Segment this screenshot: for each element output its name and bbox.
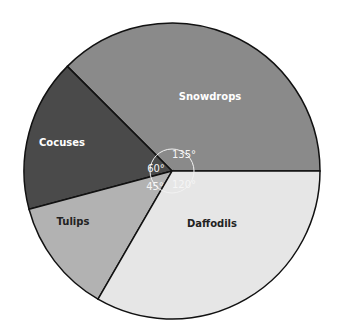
slice-label-cocuses: Cocuses — [39, 137, 85, 148]
slice-label-tulips: Tulips — [57, 216, 90, 227]
slice-label-snowdrops: Snowdrops — [179, 91, 242, 102]
angle-label-snowdrops: 135° — [172, 149, 196, 160]
angle-label-cocuses: 60° — [147, 163, 165, 174]
angle-label-daffodils: 120° — [172, 179, 196, 190]
pie-chart: SnowdropsCocusesTulipsDaffodils135°60°45… — [0, 0, 344, 336]
slice-label-daffodils: Daffodils — [187, 218, 237, 229]
angle-label-tulips: 45° — [146, 181, 164, 192]
